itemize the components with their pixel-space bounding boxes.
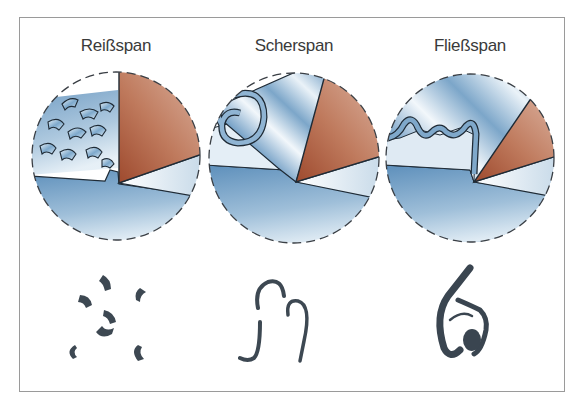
shear-chip-samples — [240, 281, 307, 361]
tear-chip-detail-circle — [30, 70, 205, 245]
shear-chip-detail-circle — [205, 70, 385, 250]
chip-formation-illustration — [0, 0, 575, 408]
tear-chip-samples — [69, 275, 146, 361]
flow-chip-samples — [440, 268, 487, 355]
flow-chip-detail-circle — [384, 72, 560, 247]
